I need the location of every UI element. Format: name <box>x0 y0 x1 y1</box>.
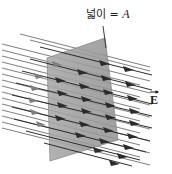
figure-canvas <box>0 0 172 174</box>
electric-flux-figure: 넓이 = A E <box>0 0 172 174</box>
